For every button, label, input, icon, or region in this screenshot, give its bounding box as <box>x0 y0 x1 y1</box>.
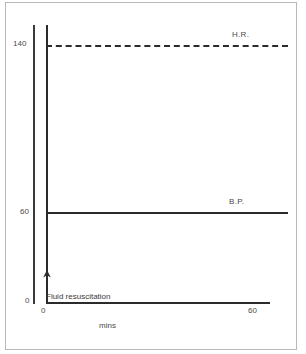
x-axis-line <box>46 302 270 304</box>
y-tick-label-140: 140 <box>13 39 26 48</box>
chart-figure: H.R. B.P. 140 60 0 0 60 mins Fluid resus… <box>0 0 306 354</box>
axis-outer-spine <box>33 25 35 304</box>
x-tick-label-0: 0 <box>41 306 45 315</box>
y-tick-label-60: 60 <box>20 207 29 216</box>
series-line-hr <box>46 45 288 47</box>
series-line-bp <box>46 212 288 214</box>
x-tick-label-60: 60 <box>248 306 257 315</box>
plot-area: H.R. B.P. 140 60 0 0 60 mins Fluid resus… <box>0 0 306 354</box>
y-axis-line <box>46 25 48 304</box>
series-label-hr: H.R. <box>232 30 249 39</box>
y-tick-label-0: 0 <box>25 296 29 305</box>
x-axis-title: mins <box>99 321 116 330</box>
annotation-label-fluid-resuscitation: Fluid resuscitation <box>46 292 110 301</box>
series-label-bp: B.P. <box>229 197 244 206</box>
